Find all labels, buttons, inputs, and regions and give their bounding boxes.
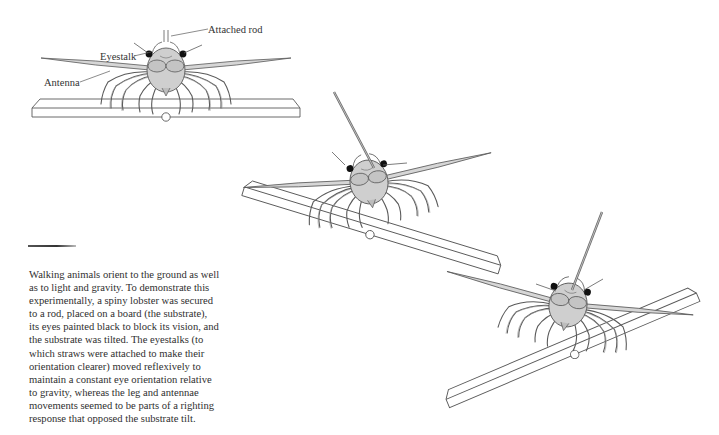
caption-line: to a rod, placed on a board (the substra… xyxy=(29,307,241,320)
caption-line: Walking animals orient to the ground as … xyxy=(29,268,241,281)
caption-line: its eyes painted black to block its visi… xyxy=(29,320,241,333)
pivot-circle xyxy=(162,113,170,121)
caption-line: movements seemed to be parts of a righti… xyxy=(29,399,241,412)
figure-caption: Walking animals orient to the ground as … xyxy=(29,268,241,425)
caption-line: maintain a constant eye orientation rela… xyxy=(29,373,241,386)
caption-line: as to light and gravity. To demonstrate … xyxy=(29,281,241,294)
caption-line: the substrate was tilted. The eyestalks … xyxy=(29,333,241,346)
leader-attached-rod xyxy=(171,29,208,36)
caption-rule xyxy=(28,245,76,247)
caption-line: orientation clearer) moved reflexively t… xyxy=(29,360,241,373)
panel-tilted-left-down xyxy=(437,212,701,411)
leader-antenna xyxy=(80,71,110,82)
caption-line: experimentally, a spiny lobster was secu… xyxy=(29,294,241,307)
label-eyestalk: Eyestalk xyxy=(100,51,137,62)
caption-line: to gravity, whereas the leg and antennae xyxy=(29,386,241,399)
label-antenna: Antenna xyxy=(44,77,80,88)
label-attached-rod: Attached rod xyxy=(208,24,263,35)
caption-line: response that opposed the substrate tilt… xyxy=(29,412,241,425)
panel-level-substrate: Attached rod Eyestalk Antenna xyxy=(32,24,300,121)
caption-line: which straws were attached to make their xyxy=(29,347,241,360)
panel-tilted-right-down xyxy=(241,92,503,278)
